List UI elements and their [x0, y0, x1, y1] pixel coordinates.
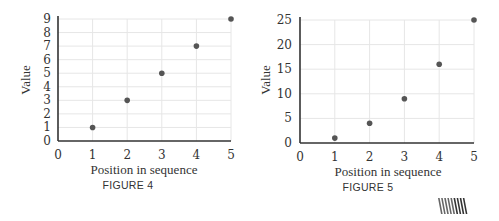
y-tick-label: 1 [43, 120, 51, 134]
y-tick-label: 15 [277, 62, 292, 76]
gridlines [300, 20, 474, 143]
data-point [367, 121, 373, 127]
data-point [402, 96, 408, 102]
y-tick-label: 3 [43, 93, 51, 107]
y-axis-label: Value [18, 65, 33, 95]
data-point [159, 70, 165, 76]
figure-4-chart: 0123456789012345Position in sequenceValu… [18, 12, 235, 191]
gridlines [58, 19, 231, 141]
x-tick-label: 2 [123, 148, 131, 162]
data-point [194, 43, 200, 49]
striped-logo-icon [437, 196, 467, 214]
y-tick-label: 7 [43, 39, 51, 53]
y-axis-label: Value [258, 65, 273, 95]
x-tick-label: 3 [401, 150, 409, 164]
y-tick-label: 5 [43, 66, 51, 80]
x-axis-label: Position in sequence [91, 162, 198, 177]
data-point [90, 125, 96, 131]
x-tick-label: 0 [296, 150, 304, 164]
figure-caption: FIGURE 5 [343, 181, 394, 193]
y-tick-label: 5 [284, 111, 292, 125]
x-tick-label: 1 [89, 148, 97, 162]
x-tick-label: 5 [470, 150, 478, 164]
y-tick-label: 2 [43, 107, 51, 121]
x-axis-label: Position in sequence [335, 164, 442, 179]
figure-canvas: 0123456789012345Position in sequenceValu… [0, 0, 499, 221]
data-point [228, 16, 234, 22]
x-tick-label: 3 [158, 148, 166, 162]
y-tick-label: 0 [284, 136, 292, 150]
y-tick-label: 6 [43, 53, 51, 67]
x-tick-label: 0 [54, 148, 62, 162]
y-tick-label: 9 [43, 12, 51, 26]
x-tick-label: 2 [366, 150, 374, 164]
data-point [124, 98, 130, 104]
y-tick-label: 8 [43, 26, 51, 40]
x-tick-label: 1 [331, 150, 339, 164]
x-tick-label: 4 [435, 150, 443, 164]
y-tick-label: 0 [43, 134, 51, 148]
y-tick-label: 20 [277, 38, 292, 52]
y-tick-label: 4 [43, 80, 51, 94]
x-tick-label: 4 [193, 148, 201, 162]
y-tick-label: 10 [277, 87, 292, 101]
y-tick-label: 25 [277, 13, 292, 27]
data-point [332, 135, 338, 141]
figure-5-chart: 0510152025012345Position in sequenceValu… [258, 13, 478, 193]
x-tick-label: 5 [227, 148, 235, 162]
data-point [436, 61, 442, 67]
figure-caption: FIGURE 4 [103, 179, 154, 191]
data-point [471, 17, 477, 23]
